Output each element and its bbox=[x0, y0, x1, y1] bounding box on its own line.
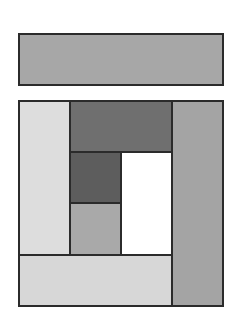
top-bar bbox=[18, 33, 224, 86]
right-column bbox=[171, 100, 224, 307]
left-column bbox=[18, 100, 71, 256]
center-medium-square bbox=[69, 202, 122, 256]
center-dark-square bbox=[69, 151, 122, 204]
center-white-block bbox=[120, 151, 173, 256]
top-center-block bbox=[69, 100, 173, 153]
bottom-bar bbox=[18, 254, 173, 307]
